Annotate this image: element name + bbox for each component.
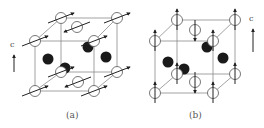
panel-a-caption: (a) xyxy=(66,110,78,120)
panel-b-c-axis-spin-order xyxy=(150,9,254,103)
dark-atom xyxy=(218,53,229,64)
panel-a-c-axis-label: c xyxy=(10,40,14,49)
panel-b-caption: (b) xyxy=(189,110,202,120)
panel-b-c-axis-label: c xyxy=(249,14,253,23)
dark-atom xyxy=(163,57,174,68)
spin-structure-figure xyxy=(0,0,264,128)
dark-atom xyxy=(101,52,112,63)
dark-atom xyxy=(43,54,54,65)
panel-a-in-plane-spin-order xyxy=(14,13,130,97)
